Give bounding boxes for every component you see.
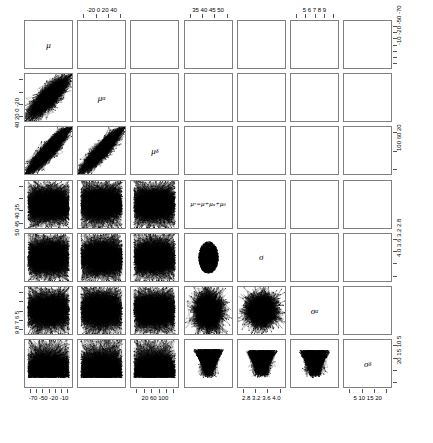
tick-mark (214, 14, 215, 18)
scatter-panel-mu_star-vs-mu (24, 180, 73, 229)
scatter-canvas (131, 181, 178, 228)
axis-left-row-2: 40 20 0 -20 (8, 73, 24, 122)
scatter-canvas (131, 234, 178, 281)
diagonal-panel-mu_delta: μδ (130, 126, 179, 175)
scatter-panel-sigma-vs-mu_alpha (77, 233, 126, 282)
axis-top-col-4: 35 40 45 50 (184, 4, 233, 20)
empty-panel-r3-c5 (237, 126, 286, 175)
scatter-panel-sigma_alpha-vs-mu_alpha (77, 286, 126, 335)
tick-mark (55, 389, 56, 393)
scatter-canvas (131, 340, 178, 387)
tick-mark (267, 389, 268, 393)
tick-mark (393, 63, 397, 64)
axis-right-row-5: 4.0 3.6 3.2 2.8 (392, 233, 412, 282)
scatter-panel-mu_star-vs-mu_delta (130, 180, 179, 229)
axis-right-row-3: 100 60 20 (392, 126, 412, 175)
tick-mark (42, 389, 43, 393)
empty-panel-r3-c7 (343, 126, 392, 175)
diagonal-label-mu_star: μ*=μ+μα+μδ (185, 181, 232, 228)
tick-labels: 9 8 7 6 5 (14, 311, 20, 334)
diagonal-label-sigma: σ (238, 234, 285, 281)
diagonal-panel-mu_star: μ*=μ+μα+μδ (184, 180, 233, 229)
tick-labels: 5 6 7 8 9 (303, 7, 326, 13)
empty-panel-r3-c4 (184, 126, 233, 175)
scatter-canvas (238, 340, 285, 387)
tick-labels: 40 20 0 -20 (14, 98, 20, 128)
scatter-canvas (185, 234, 232, 281)
tick-mark (83, 14, 84, 18)
tick-mark (362, 389, 363, 393)
empty-panel-r3-c6 (290, 126, 339, 175)
tick-mark (243, 389, 244, 393)
tick-mark (151, 389, 152, 393)
scatter-panel-sigma_delta-vs-mu_star (184, 339, 233, 388)
diagonal-label-mu_alpha: μα (78, 74, 125, 121)
diagonal-label-mu_delta: μδ (131, 127, 178, 174)
scatter-canvas (238, 287, 285, 334)
scatter-canvas (185, 340, 232, 387)
tick-mark (305, 14, 306, 18)
empty-panel-r1-c5 (237, 20, 286, 69)
tick-mark (393, 276, 397, 277)
scatter-panel-sigma-vs-mu (24, 233, 73, 282)
empty-panel-r2-c4 (184, 73, 233, 122)
diagonal-label-sigma_alpha: σα (291, 287, 338, 334)
tick-mark (324, 14, 325, 18)
scatter-panel-sigma-vs-mu_star (184, 233, 233, 282)
empty-panel-r1-c2 (77, 20, 126, 69)
diagonal-panel-sigma_delta: σδ (343, 339, 392, 388)
tick-mark (49, 389, 50, 393)
empty-panel-r5-c6 (290, 233, 339, 282)
scatter-panel-sigma-vs-mu_delta (130, 233, 179, 282)
tick-labels: 20 60 100 (142, 395, 169, 401)
empty-panel-r1-c7 (343, 20, 392, 69)
tick-labels: -20 0 20 40 (87, 7, 117, 13)
scatter-canvas (25, 181, 72, 228)
pairs-plot-figure: μμαμδμ*=μ+μα+μδσσασδ-20 0 20 4035 40 45 … (0, 0, 433, 443)
scatter-canvas (25, 74, 72, 121)
axis-left-row-6: 9 8 7 6 5 (8, 286, 24, 335)
empty-panel-r2-c6 (290, 73, 339, 122)
tick-mark (255, 389, 256, 393)
tick-mark (190, 14, 191, 18)
scatter-canvas (78, 340, 125, 387)
tick-mark (393, 51, 397, 52)
scatter-panel-mu_star-vs-mu_alpha (77, 180, 126, 229)
tick-mark (19, 79, 23, 80)
tick-mark (19, 292, 23, 293)
tick-labels: -10 -20 -50 -70 (396, 5, 402, 45)
tick-mark (159, 389, 160, 393)
scatter-canvas (78, 181, 125, 228)
tick-mark (19, 301, 23, 302)
empty-panel-r4-c6 (290, 180, 339, 229)
tick-mark (19, 92, 23, 93)
tick-mark (166, 389, 167, 393)
scatter-panel-sigma_delta-vs-mu_delta (130, 339, 179, 388)
scatter-canvas (25, 287, 72, 334)
tick-mark (36, 389, 37, 393)
tick-mark (349, 389, 350, 393)
tick-labels: 20 15 10 5 (396, 335, 402, 363)
scatter-panel-sigma_alpha-vs-mu_delta (130, 286, 179, 335)
diagonal-panel-mu_alpha: μα (77, 73, 126, 122)
scatter-panel-mu_delta-vs-mu_alpha (77, 126, 126, 175)
scatter-panel-sigma_delta-vs-sigma_alpha (290, 339, 339, 388)
empty-panel-r4-c7 (343, 180, 392, 229)
tick-labels: 4.0 3.6 3.2 2.8 (396, 219, 402, 257)
scatter-panel-sigma_alpha-vs-mu (24, 286, 73, 335)
axis-top-col-2: -20 0 20 40 (77, 4, 126, 20)
scatter-canvas (185, 287, 232, 334)
tick-labels: 5 10 15 20 (354, 395, 382, 401)
scatter-canvas (25, 127, 72, 174)
tick-mark (227, 14, 228, 18)
tick-mark (173, 389, 174, 393)
diagonal-label-sigma_delta: σδ (344, 340, 391, 387)
empty-panel-r2-c7 (343, 73, 392, 122)
diagonal-panel-sigma_alpha: σα (290, 286, 339, 335)
tick-mark (374, 389, 375, 393)
axis-bottom-col-7: 5 10 15 20 (343, 388, 392, 406)
tick-mark (393, 263, 397, 264)
tick-labels: 35 40 45 50 (192, 7, 224, 13)
axis-bottom-col-1: -70 -50 -20 -10 (24, 388, 73, 406)
axis-bottom-col-5: 2.8 3.2 3.6 4.0 (237, 388, 286, 406)
